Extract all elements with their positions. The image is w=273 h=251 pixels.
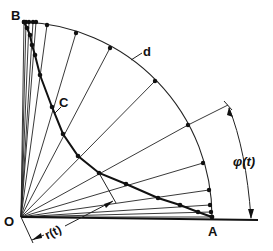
arc-point [209, 210, 213, 214]
d-leader [131, 53, 142, 60]
arc-point [201, 161, 205, 165]
arc-point [208, 203, 212, 207]
curve-point [50, 105, 55, 110]
label-a: A [208, 224, 218, 239]
label-c: C [59, 95, 69, 110]
label-r: r(t) [42, 222, 63, 242]
arc-point [34, 20, 38, 24]
curve-point [76, 154, 81, 159]
ray [21, 205, 210, 217]
curve-point [178, 203, 183, 208]
phi-tick [224, 101, 232, 110]
r-extension-origin [21, 217, 33, 243]
curve-point [196, 210, 201, 215]
curve-point [30, 43, 35, 48]
radial-rays [21, 22, 212, 217]
arc-d [24, 22, 212, 217]
label-d: d [143, 44, 151, 59]
curve-point [156, 196, 161, 201]
arc-point [207, 188, 211, 192]
curve-point [61, 132, 66, 137]
arc-point [108, 46, 112, 50]
phi-ray-extension [188, 105, 228, 125]
ray [21, 163, 203, 217]
curve-point [124, 182, 129, 187]
curve-point [28, 33, 33, 38]
curve-point [22, 20, 27, 25]
label-b: B [11, 8, 20, 23]
ray [21, 48, 110, 217]
label-o: O [4, 214, 14, 229]
curve-c [24, 22, 212, 217]
ray [21, 125, 188, 217]
arc-point [153, 79, 157, 83]
arc-point [74, 31, 78, 35]
curve-point [38, 73, 43, 78]
phi-arrowhead-bottom [248, 209, 254, 219]
arc-point [45, 23, 49, 27]
curve-point [33, 53, 38, 58]
arc-point [27, 20, 31, 24]
r-arrowhead-origin [32, 233, 42, 240]
curve-point [25, 26, 30, 31]
r-arrowhead-curve [104, 201, 113, 208]
label-phi: φ(t) [233, 154, 255, 169]
diagram-canvas: B C d O A φ(t) r(t) [0, 0, 273, 251]
